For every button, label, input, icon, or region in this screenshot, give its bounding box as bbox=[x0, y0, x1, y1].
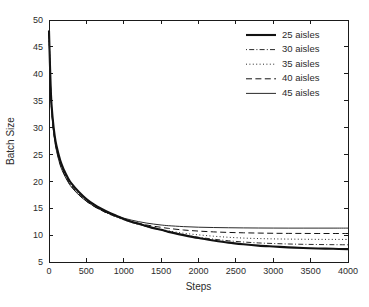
x-tick-label: 4000 bbox=[338, 266, 358, 276]
y-tick-label: 10 bbox=[33, 230, 43, 240]
legend-label: 30 aisles bbox=[282, 43, 320, 54]
x-tick-label: 1000 bbox=[114, 266, 134, 276]
y-tick-label: 30 bbox=[33, 123, 43, 133]
x-tick-label: 0 bbox=[46, 266, 51, 276]
y-tick-label: 25 bbox=[33, 150, 43, 160]
legend-label: 35 aisles bbox=[282, 58, 320, 69]
x-tick-label: 3000 bbox=[263, 266, 283, 276]
chart-figure: 5101520253035404550 05001000150020002500… bbox=[0, 0, 369, 307]
x-tick-label: 2500 bbox=[226, 266, 246, 276]
y-tick-label: 15 bbox=[33, 203, 43, 213]
y-tick-label: 35 bbox=[33, 96, 43, 106]
y-tick-label: 50 bbox=[33, 15, 43, 25]
x-tick-label: 500 bbox=[79, 266, 94, 276]
y-tick-label: 40 bbox=[33, 69, 43, 79]
x-tick-label: 2000 bbox=[188, 266, 208, 276]
x-tick-label: 1500 bbox=[151, 266, 171, 276]
legend-label: 45 aisles bbox=[282, 87, 320, 98]
y-axis-title: Batch Size bbox=[5, 117, 16, 165]
y-tick-label: 5 bbox=[38, 257, 43, 267]
x-tick-label: 3500 bbox=[301, 266, 321, 276]
x-axis-title: Steps bbox=[186, 281, 212, 292]
y-tick-label: 20 bbox=[33, 177, 43, 187]
line-chart: 5101520253035404550 05001000150020002500… bbox=[0, 0, 369, 307]
legend-label: 25 aisles bbox=[282, 29, 320, 40]
y-tick-label: 45 bbox=[33, 42, 43, 52]
legend-label: 40 aisles bbox=[282, 72, 320, 83]
